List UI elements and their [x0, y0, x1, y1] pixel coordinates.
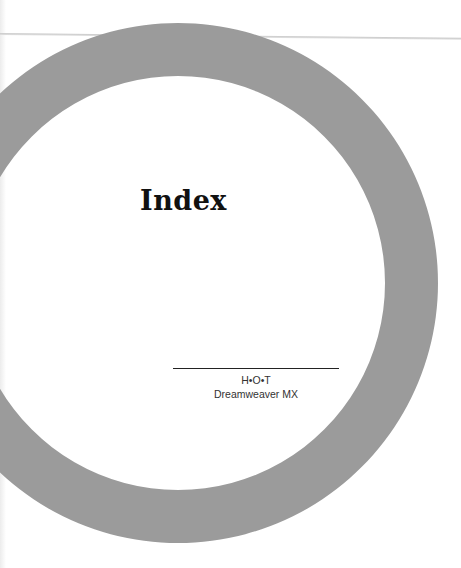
series-name: H•O•T	[173, 373, 339, 387]
decorative-ring	[0, 0, 461, 568]
book-title: Dreamweaver MX	[173, 387, 339, 401]
series-divider	[173, 368, 339, 369]
page-title: Index	[140, 185, 227, 216]
series-block: H•O•T Dreamweaver MX	[173, 373, 339, 401]
